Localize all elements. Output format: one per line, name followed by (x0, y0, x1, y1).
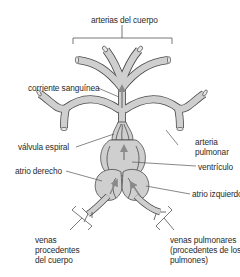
label-corriente-sanguinea: corriente sanguínea (28, 83, 99, 93)
heart-diagram: arterias del cuerpo corriente sanguínea … (0, 0, 240, 277)
label-valvula-espiral: válvula espiral (18, 142, 69, 152)
arteries-bracket (73, 25, 172, 44)
label-venas-cuerpo-line1: venas (35, 235, 57, 245)
label-arteria-pulmonar-line1: arteria (195, 137, 218, 147)
label-arterias-del-cuerpo: arterias del cuerpo (91, 15, 158, 25)
label-venas-pulmonares-line2: (procedentes de los (170, 245, 240, 255)
label-venas-cuerpo-line3: del cuerpo (35, 255, 73, 265)
label-ventriculo: ventrículo (198, 162, 233, 172)
label-arteria-pulmonar-line2: pulmonar (195, 147, 229, 157)
label-atrio-izquierdo: atrio izquierdo (192, 189, 240, 199)
label-venas-pulmonares-line3: pulmones) (170, 255, 208, 265)
conus-arteriosus (112, 122, 133, 140)
label-venas-pulmonares-line1: venas pulmonares (170, 235, 236, 245)
label-venas-cuerpo-line2: procedentes (35, 245, 80, 255)
label-atrio-derecho: atrio derecho (15, 166, 62, 176)
veins (82, 196, 166, 222)
